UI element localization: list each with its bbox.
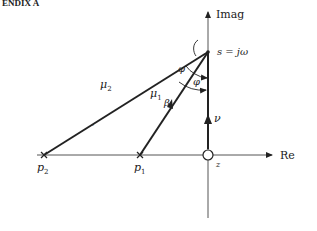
phi-upper-arc: [186, 66, 195, 74]
top-arc: [194, 40, 198, 56]
real-axis-label: Re: [280, 149, 295, 162]
stray-mark: ,: [92, 119, 94, 127]
s-label: s = jω: [217, 46, 248, 57]
imag-axis-label: Imag: [216, 8, 244, 21]
mu1-label: μ1: [150, 87, 162, 102]
p1-label: p1: [134, 161, 146, 176]
z-label: z: [215, 160, 221, 169]
phi-lower-label: φ: [193, 76, 200, 87]
header-text: ENDIX A: [2, 0, 40, 8]
mu2-label: μ2: [100, 78, 112, 93]
beta-label: β: [163, 97, 170, 108]
nu-label: ν: [214, 112, 221, 125]
p2-label: p2: [37, 161, 49, 176]
pole-zero-vector-diagram: ENDIX A Re Imag s = jω p2 p1 z μ2 μ1 ν φ…: [0, 0, 317, 231]
nu-arrow-icon: [204, 114, 212, 124]
s-point: [206, 50, 210, 54]
phi-upper-label: φ: [178, 63, 185, 74]
zero-z-icon: [203, 150, 213, 160]
mu1-vector: [140, 52, 208, 155]
